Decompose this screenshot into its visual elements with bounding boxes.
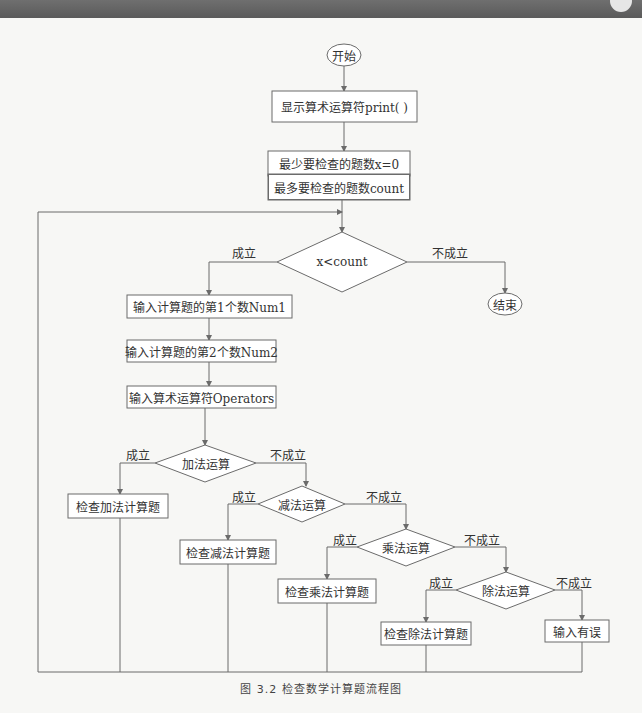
edge-sub-yes [228,504,258,540]
check-sub-label: 检查减法计算题 [180,540,276,564]
input-operator-label: 输入算术运算符Operators [127,386,276,408]
edge-div-yes [426,590,456,622]
edge-label-add-yes: 成立 [126,446,150,463]
edge-label-sub-no: 不成立 [366,488,402,505]
edge-mul-yes [327,547,357,579]
edge-div-no [555,590,582,620]
edge-add-no [256,463,306,486]
input-error-label: 输入有误 [545,620,609,642]
min-count-label: 最少要检查的题数x=0 [268,151,410,176]
edge-add-yes [120,463,155,494]
loop-condition-label: x<count [277,250,407,274]
edge-label-mul-yes: 成立 [333,531,357,548]
check-div-label: 检查除法计算题 [381,622,471,645]
edge-sub-no [345,504,406,529]
edge-label-div-no: 不成立 [556,574,592,591]
check-add-label: 检查加法计算题 [68,494,168,518]
edge-label-sub-yes: 成立 [232,488,256,505]
edge-label-mul-no: 不成立 [464,531,500,548]
is-sub-label: 减法运算 [258,493,345,515]
is-add-label: 加法运算 [155,452,256,474]
max-count-label: 最多要检查的题数count [268,174,410,200]
edge-loop-no [407,262,505,293]
input-num2-label: 输入计算题的第2个数Num2 [127,340,276,362]
start-label: 开始 [327,44,361,66]
figure-caption: 图 3.2 检查数学计算题流程图 [0,680,642,696]
edge-label-div-yes: 成立 [429,574,453,591]
edge-label-add-no: 不成立 [270,446,306,463]
end-label: 结束 [488,293,522,315]
edge-label-loop-yes: 成立 [232,244,256,261]
check-mul-label: 检查乘法计算题 [278,579,376,603]
is-div-label: 除法运算 [456,579,555,601]
show-operators-label: 显示算术运算符print( ) [272,91,417,122]
edge-loop-yes [209,262,277,295]
edge-mul-no [455,547,506,572]
is-mul-label: 乘法运算 [357,536,455,558]
input-num1-label: 输入计算题的第1个数Num1 [127,295,292,318]
edge-label-loop-no: 不成立 [432,244,468,261]
